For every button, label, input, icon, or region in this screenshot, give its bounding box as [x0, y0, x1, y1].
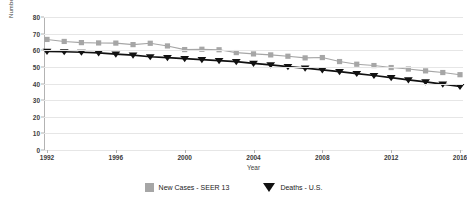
data-point-square [130, 42, 135, 47]
plot-area: 01020304050607080 [44, 17, 463, 150]
x-tick-mark [185, 150, 186, 153]
y-tick-mark [41, 150, 44, 151]
gridline-y [44, 34, 463, 35]
y-tick-label: 10 [33, 130, 40, 137]
x-tick-mark [391, 150, 392, 153]
y-tick-mark [41, 100, 44, 101]
y-tick-label: 50 [33, 63, 40, 70]
series-line [47, 39, 460, 74]
x-tick-label: 1992 [40, 154, 54, 161]
data-point-square [303, 55, 308, 60]
legend-item-new-cases[interactable]: New Cases - SEER 13 [145, 183, 230, 192]
legend-label-deaths: Deaths - U.S. [280, 184, 322, 191]
gridline-y [44, 100, 463, 101]
y-tick-mark [41, 66, 44, 67]
data-point-square [148, 41, 153, 46]
data-point-square [62, 39, 67, 44]
gridline-y [44, 67, 463, 68]
data-point-square [320, 55, 325, 60]
data-point-square [457, 72, 462, 77]
data-point-square [285, 54, 290, 59]
square-marker-icon [145, 183, 154, 192]
data-point-triangle [456, 84, 465, 90]
data-point-square [113, 41, 118, 46]
x-tick-label: 2012 [384, 154, 398, 161]
y-axis-title: Number Per 100,000 Persons [8, 0, 18, 37]
x-tick-label: 2008 [315, 154, 329, 161]
data-point-square [440, 70, 445, 75]
x-tick-label: 2000 [177, 154, 191, 161]
data-point-square [423, 68, 428, 73]
data-point-square [79, 40, 84, 45]
y-tick-label: 30 [33, 97, 40, 104]
x-tick-mark [254, 150, 255, 153]
series-line [47, 51, 460, 86]
y-tick-mark [41, 83, 44, 84]
chart-container: Number Per 100,000 Persons 0102030405060… [0, 0, 467, 210]
y-tick-label: 40 [33, 80, 40, 87]
x-tick-label: 2016 [453, 154, 467, 161]
y-tick-label: 80 [33, 14, 40, 21]
triangle-down-marker-icon [263, 183, 275, 192]
data-point-square [251, 51, 256, 56]
data-point-square [96, 40, 101, 45]
y-tick-label: 20 [33, 113, 40, 120]
gridline-y [44, 84, 463, 85]
y-tick-label: 70 [33, 30, 40, 37]
legend-label-new-cases: New Cases - SEER 13 [159, 184, 230, 191]
x-tick-label: 2004 [246, 154, 260, 161]
y-tick-label: 0 [36, 147, 40, 154]
data-point-square [268, 52, 273, 57]
gridline-y [44, 17, 463, 18]
gridline-y [44, 133, 463, 134]
x-tick-mark [322, 150, 323, 153]
gridline-y [44, 50, 463, 51]
y-tick-mark [41, 17, 44, 18]
series-new-cases [44, 37, 462, 77]
chart-legend: New Cases - SEER 13 Deaths - U.S. [0, 183, 467, 192]
y-tick-label: 60 [33, 47, 40, 54]
y-axis-title-container: Number Per 100,000 Persons [10, 17, 22, 150]
data-point-square [165, 43, 170, 48]
legend-item-deaths[interactable]: Deaths - U.S. [263, 183, 322, 192]
gridline-y [44, 117, 463, 118]
x-axis-title: Year [44, 164, 463, 171]
y-tick-mark [41, 33, 44, 34]
x-tick-mark [116, 150, 117, 153]
y-tick-mark [41, 133, 44, 134]
data-point-square [44, 37, 49, 42]
y-tick-mark [41, 50, 44, 51]
x-tick-mark [460, 150, 461, 153]
x-tick-mark [47, 150, 48, 153]
y-tick-mark [41, 116, 44, 117]
x-tick-label: 1996 [109, 154, 123, 161]
data-point-square [337, 59, 342, 64]
